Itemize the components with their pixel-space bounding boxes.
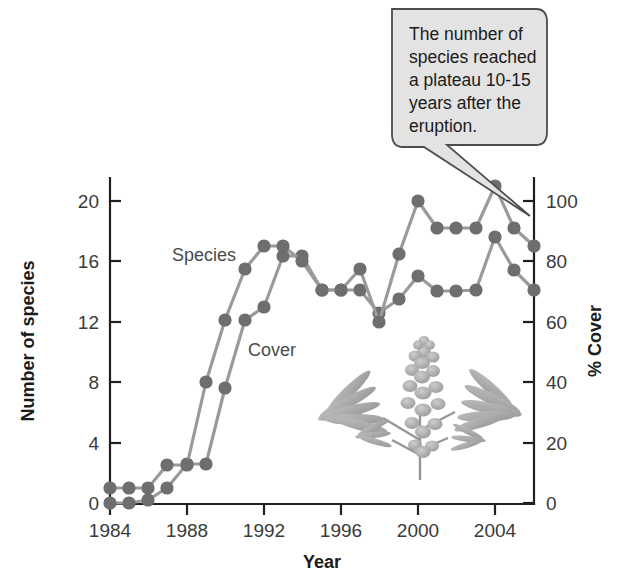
- y2-tick-label-0: 0: [546, 493, 557, 514]
- x-axis-ticks: [110, 504, 495, 515]
- y2-tick-label-60: 60: [546, 312, 567, 333]
- lupine-plant-illustration: [308, 336, 531, 480]
- y2-tick-label-100: 100: [546, 191, 578, 212]
- chart-svg: 0 4 8 12 16 20 0 20 40 60 80 100 1984 19…: [0, 0, 619, 581]
- y-axis-left-tick-labels: 0 4 8 12 16 20: [78, 191, 100, 514]
- x-tick-label-1984: 1984: [89, 520, 132, 541]
- y-tick-label-0: 0: [88, 493, 99, 514]
- y-axis-left-ticks: [110, 201, 121, 503]
- callout-line-1: The number of: [409, 24, 523, 44]
- x-tick-label-2000: 2000: [397, 520, 439, 541]
- x-axis-title: Year: [303, 552, 341, 572]
- x-tick-label-2004: 2004: [474, 520, 517, 541]
- y-axis-right-tick-labels: 0 20 40 60 80 100: [546, 191, 578, 514]
- y-axis-left-title: Number of species: [18, 260, 38, 421]
- x-tick-label-1996: 1996: [320, 520, 362, 541]
- y2-tick-label-40: 40: [546, 372, 567, 393]
- y-tick-label-4: 4: [88, 433, 99, 454]
- y-tick-label-8: 8: [88, 372, 99, 393]
- x-tick-label-1988: 1988: [166, 520, 208, 541]
- y2-tick-label-80: 80: [546, 251, 567, 272]
- lupine-recovery-chart: 0 4 8 12 16 20 0 20 40 60 80 100 1984 19…: [0, 0, 619, 581]
- callout-line-5: eruption.: [409, 116, 477, 136]
- y2-tick-label-20: 20: [546, 433, 567, 454]
- plateau-callout: The number of species reached a plateau …: [392, 9, 547, 216]
- series-species: [103, 179, 540, 494]
- species-line-label: Species: [172, 245, 236, 265]
- y-tick-label-16: 16: [78, 251, 99, 272]
- callout-line-3: a plateau 10-15: [409, 70, 531, 90]
- y-tick-label-12: 12: [78, 312, 99, 333]
- species-markers: [103, 179, 540, 494]
- y-axis-right-title: % Cover: [585, 305, 605, 377]
- y-tick-label-20: 20: [78, 191, 99, 212]
- x-axis-tick-labels: 1984 1988 1992 1996 2000 2004: [89, 520, 517, 541]
- cover-line-label: Cover: [248, 340, 296, 360]
- callout-line-4: years after the: [409, 93, 521, 113]
- callout-line-2: species reached: [409, 47, 536, 67]
- x-tick-label-1992: 1992: [243, 520, 285, 541]
